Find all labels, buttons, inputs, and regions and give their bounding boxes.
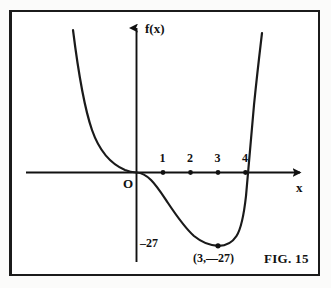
figure-container: f(x) x O 1 2 3 4 –27 (3,—27) FIG. 15	[0, 0, 331, 288]
point-marker-1	[161, 170, 166, 175]
x-tick-label-4: 4	[242, 152, 248, 164]
minimum-point-label: (3,—27)	[193, 252, 234, 264]
x-axis-label: x	[296, 181, 303, 194]
origin-label: O	[123, 177, 133, 190]
x-tick-label-2: 2	[187, 152, 193, 164]
point-marker-3	[216, 170, 221, 175]
plot-canvas	[0, 0, 331, 288]
y-axis-label: f(x)	[145, 22, 165, 35]
function-curve	[73, 30, 262, 246]
y-value-label-minus27: –27	[140, 237, 158, 249]
x-tick-label-1: 1	[160, 152, 166, 164]
x-tick-label-3: 3	[215, 152, 221, 164]
point-marker-2	[188, 170, 193, 175]
minimum-point-marker	[215, 243, 220, 248]
point-marker-4	[243, 170, 248, 175]
figure-caption: FIG. 15	[264, 252, 309, 265]
